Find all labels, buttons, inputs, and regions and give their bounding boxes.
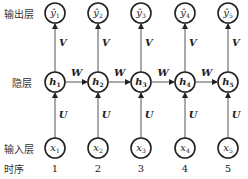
time-step-label: 1 [52, 163, 58, 174]
weight-v-label: V [232, 37, 241, 48]
weight-u-label: U [232, 109, 242, 120]
rnn-diagram: UVŷ1h1x11WUVŷ2h2x22WUVŷ3h3x33WUVŷ4h4x44W… [0, 0, 248, 179]
weight-u-label: U [145, 109, 155, 120]
weight-v-label: V [189, 37, 198, 48]
weight-w-label: W [114, 67, 127, 78]
weight-v-label: V [102, 37, 111, 48]
weight-w-label: W [157, 67, 170, 78]
time-step-label: 2 [95, 163, 101, 174]
weight-u-label: U [59, 109, 69, 120]
weight-w-label: W [201, 67, 214, 78]
time-step-label: 3 [138, 163, 144, 174]
weight-v-label: V [59, 37, 68, 48]
weight-u-label: U [189, 109, 199, 120]
weight-w-label: W [71, 67, 84, 78]
time-step-label: 5 [225, 163, 231, 174]
weight-v-label: V [145, 37, 154, 48]
time-step-label: 4 [182, 163, 188, 174]
weight-u-label: U [102, 109, 112, 120]
